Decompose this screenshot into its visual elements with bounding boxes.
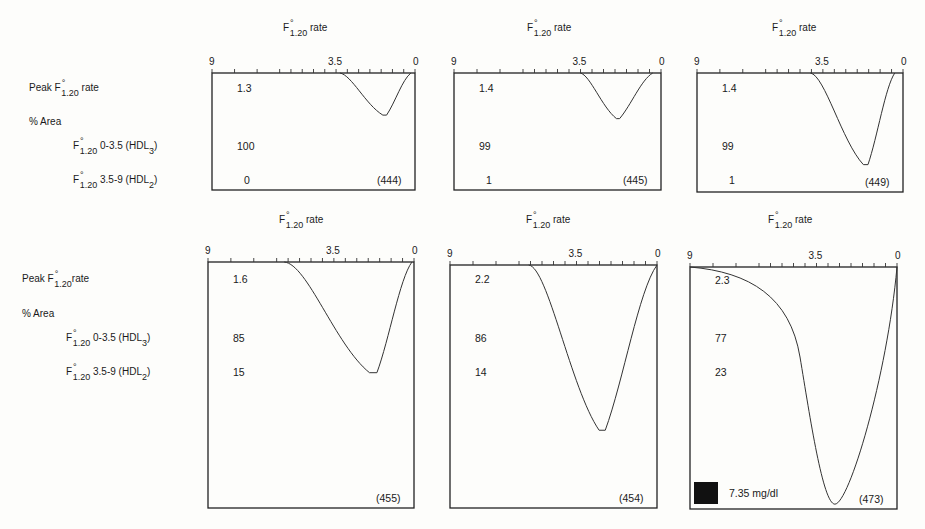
hdl2-percent-value: 1	[729, 174, 735, 186]
panel-455	[208, 258, 414, 508]
panel-454	[450, 261, 657, 508]
chart-lines	[0, 0, 925, 529]
axis-tick-3.5: 3.5	[573, 56, 587, 67]
axis-tick-3.5: 3.5	[815, 56, 829, 67]
axis-tick-3.5: 3.5	[809, 250, 823, 261]
axis-tick-3.5: 3.5	[328, 56, 342, 67]
sample-id-label: (473)	[859, 493, 884, 505]
panel-header: F°1.20 rate	[526, 214, 570, 225]
axis-tick-0: 0	[659, 56, 665, 67]
hdl3-percent-value: 85	[233, 332, 245, 344]
axis-tick-9: 9	[209, 56, 215, 67]
axis-tick-0: 0	[901, 56, 907, 67]
sample-id-label: (445)	[623, 174, 648, 186]
peak-rate-value: 2.2	[475, 273, 490, 285]
axis-tick-9: 9	[687, 250, 693, 261]
panel-header: F°1.20 rate	[279, 214, 323, 225]
axis-tick-9: 9	[451, 56, 457, 67]
peak-rate-value: 1.6	[233, 273, 248, 285]
hdl2-percent-value: 14	[475, 366, 487, 378]
axis-tick-9: 9	[694, 56, 700, 67]
hdl2-percent-value: 1	[486, 174, 492, 186]
scale-legend-label: 7.35 mg/dl	[729, 487, 778, 499]
axis-tick-0: 0	[412, 245, 418, 256]
axis-tick-9: 9	[205, 245, 211, 256]
hdl3-percent-value: 99	[722, 140, 734, 152]
peak-rate-value: 1.4	[722, 82, 737, 94]
panel-header: F°1.20 rate	[283, 22, 327, 33]
axis-tick-0: 0	[413, 56, 419, 67]
hdl2-percent-value: 0	[244, 174, 250, 186]
axis-tick-3.5: 3.5	[326, 245, 340, 256]
sample-id-label: (444)	[377, 174, 402, 186]
peak-rate-value: 1.4	[479, 82, 494, 94]
peak-rate-value: 1.3	[237, 82, 252, 94]
sample-id-label: (449)	[865, 176, 890, 188]
axis-tick-9: 9	[447, 248, 453, 259]
panel-header: F°1.20 rate	[527, 22, 571, 33]
peak-rate-value: 2.3	[715, 274, 730, 286]
sample-id-label: (455)	[376, 492, 401, 504]
panel-473	[690, 263, 897, 509]
axis-tick-0: 0	[655, 248, 661, 259]
panel-header: F°1.20 rate	[768, 214, 812, 225]
axis-tick-0: 0	[895, 250, 901, 261]
scale-swatch	[694, 482, 718, 504]
hdl2-percent-value: 15	[233, 366, 245, 378]
hdl3-percent-value: 77	[715, 332, 727, 344]
sample-id-label: (454)	[619, 492, 644, 504]
hdl3-percent-value: 100	[237, 140, 255, 152]
axis-tick-3.5: 3.5	[569, 248, 583, 259]
panel-header: F°1.20 rate	[772, 22, 816, 33]
hdl2-percent-value: 23	[715, 366, 727, 378]
hdl3-percent-value: 99	[479, 140, 491, 152]
hdl3-percent-value: 86	[475, 332, 487, 344]
